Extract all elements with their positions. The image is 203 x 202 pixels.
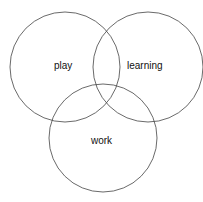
venn-diagram: play learning work	[0, 0, 203, 202]
label-play: play	[54, 60, 72, 71]
venn-circles	[0, 0, 203, 202]
label-work: work	[91, 135, 112, 146]
label-learning: learning	[127, 60, 163, 71]
